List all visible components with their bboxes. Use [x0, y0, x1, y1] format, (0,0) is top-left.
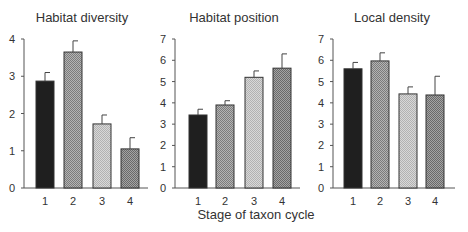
x-tick-label: 1 [350, 195, 356, 207]
bar-stage-2 [216, 105, 234, 188]
y-tick-label: 3 [9, 70, 15, 82]
y-tick-label: 0 [318, 182, 324, 194]
y-tick-label: 6 [160, 54, 166, 66]
y-tick-label: 1 [9, 145, 15, 157]
bar-stage-3 [93, 124, 111, 188]
bar-stage-1 [344, 69, 362, 188]
chart-title: Local density [354, 10, 430, 25]
y-tick-label: 0 [160, 182, 166, 194]
x-tick-label: 2 [70, 195, 76, 207]
y-tick-label: 3 [160, 118, 166, 130]
y-tick-label: 4 [318, 97, 324, 109]
y-tick-label: 0 [9, 182, 15, 194]
bar-stage-2 [64, 52, 82, 188]
bar-stage-3 [399, 94, 417, 188]
x-tick-label: 1 [195, 195, 201, 207]
x-tick-label: 4 [432, 195, 438, 207]
chart-title: Habitat diversity [36, 10, 129, 25]
bar-stage-4 [121, 149, 139, 188]
y-tick-label: 5 [160, 76, 166, 88]
y-tick-label: 7 [318, 33, 324, 45]
y-tick-label: 4 [160, 97, 166, 109]
y-tick-label: 2 [160, 139, 166, 151]
bar-stage-1 [36, 81, 54, 188]
x-tick-label: 2 [377, 195, 383, 207]
x-tick-label: 4 [127, 195, 133, 207]
x-tick-label: 4 [279, 195, 285, 207]
y-tick-label: 3 [318, 118, 324, 130]
chart-title: Habitat position [189, 10, 279, 25]
x-tick-label: 3 [251, 195, 257, 207]
y-tick-label: 6 [318, 54, 324, 66]
y-tick-label: 1 [160, 161, 166, 173]
x-tick-label: 3 [99, 195, 105, 207]
y-tick-label: 2 [318, 139, 324, 151]
x-axis-label: Stage of taxon cycle [197, 207, 314, 222]
y-tick-label: 2 [9, 108, 15, 120]
figure: Habitat diversity012341234Habitat positi… [0, 0, 468, 232]
chart-panel-3: Local density012345671234 [318, 10, 455, 207]
bar-stage-4 [426, 95, 444, 188]
bar-stage-4 [273, 68, 291, 188]
chart-panel-1: Habitat diversity012341234 [9, 10, 148, 207]
bar-stage-3 [245, 77, 263, 188]
y-tick-label: 4 [9, 33, 15, 45]
x-tick-label: 1 [42, 195, 48, 207]
y-tick-label: 5 [318, 76, 324, 88]
y-tick-label: 1 [318, 161, 324, 173]
x-tick-label: 3 [405, 195, 411, 207]
x-tick-label: 2 [222, 195, 228, 207]
chart-panel-2: Habitat position012345671234 [160, 10, 300, 207]
bar-stage-1 [189, 115, 207, 188]
bar-stage-2 [371, 61, 389, 188]
y-tick-label: 7 [160, 33, 166, 45]
